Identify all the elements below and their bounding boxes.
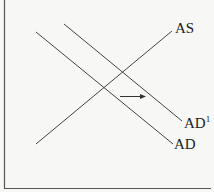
diagram-frame: AS AD1 AD <box>0 0 214 192</box>
ad1-label-superscript: 1 <box>206 114 211 124</box>
ad-label-text: AD <box>174 136 196 152</box>
as-label-text: AS <box>175 20 194 36</box>
ad-label: AD <box>174 137 196 152</box>
ad1-label-text: AD <box>184 115 206 131</box>
ad1-label: AD1 <box>184 115 210 131</box>
as-label: AS <box>175 21 194 36</box>
shift-arrow-icon <box>120 94 146 99</box>
